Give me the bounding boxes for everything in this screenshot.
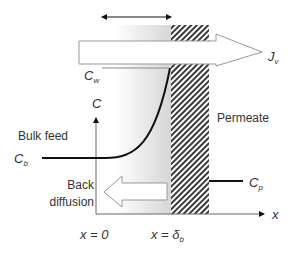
bulk-feed-label: Bulk feed: [18, 129, 68, 143]
x-boundary-label: x = δb: [150, 227, 185, 244]
wall-concentration-label: Cw: [84, 68, 100, 85]
x-origin-label: x = 0: [79, 227, 109, 242]
x-axis-label: x: [271, 207, 279, 222]
back-diffusion-label-line1: Back: [67, 178, 95, 192]
flux-label: Jv: [267, 49, 280, 66]
concentration-axis-label: C: [92, 96, 102, 111]
back-diffusion-label-line2: diffusion: [50, 195, 94, 209]
concentration-polarization-diagram: Jv Cw C x Bulk feed Cb Permeate Cp Back …: [0, 0, 296, 259]
bulk-concentration-label: Cb: [14, 151, 28, 168]
permeate-concentration-label: Cp: [249, 175, 263, 192]
permeate-label: Permeate: [217, 111, 269, 125]
